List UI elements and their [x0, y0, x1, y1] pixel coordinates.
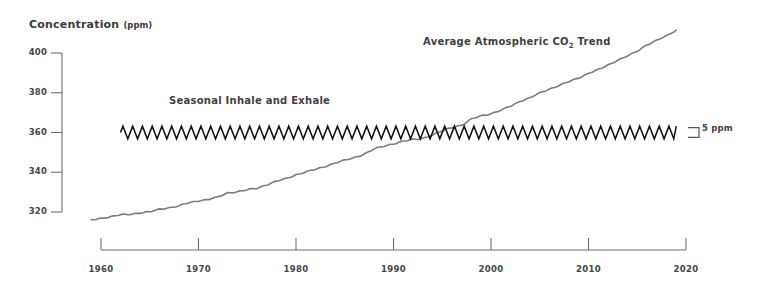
y-tick-label: 320 [21, 206, 47, 216]
x-tick-label: 1970 [177, 264, 221, 274]
seasonal-oscillation-line [121, 126, 677, 139]
y-tick-label: 400 [21, 47, 47, 57]
x-tick-label: 1990 [372, 264, 416, 274]
co2-concentration-chart: Concentration (ppm) Average Atmospheric … [0, 0, 773, 293]
trend-line [91, 30, 676, 220]
axes-group [62, 53, 686, 250]
y-tick-label: 340 [21, 166, 47, 176]
y-tick-label: 380 [21, 87, 47, 97]
x-tick-label: 1980 [274, 264, 318, 274]
x-tick-label: 1960 [79, 264, 123, 274]
y-tick-label: 360 [21, 127, 47, 137]
x-tick-label: 2010 [567, 264, 611, 274]
plot-area [0, 0, 773, 293]
scale-bar-bracket [688, 128, 699, 138]
x-tick-label: 2020 [664, 264, 708, 274]
x-tick-label: 2000 [469, 264, 513, 274]
